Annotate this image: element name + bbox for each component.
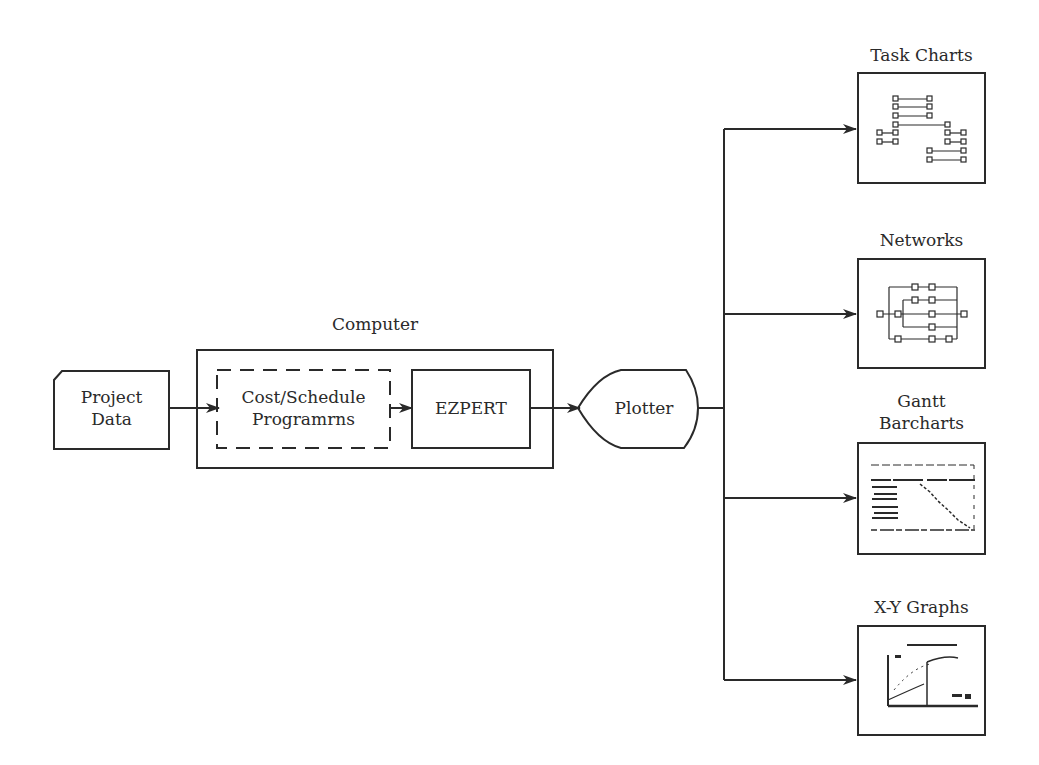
gantt-label-line2: Barcharts [858,412,985,434]
cost-schedule-label-line2: Programrns [217,408,390,430]
project-data-label-line1: Project [54,386,169,408]
task-charts-label: Task Charts [858,44,985,66]
computer-label: Computer [197,313,553,335]
xy-graphs-box [858,626,985,735]
gantt-label-line1: Gantt [858,390,985,412]
ezpert-label: EZPERT [412,397,530,419]
task-chart-thumbnail-icon [877,96,966,162]
project-data-label: Project Data [54,386,169,430]
xy-graphs-label: X-Y Graphs [858,596,985,618]
project-data-label-line2: Data [54,408,169,430]
network-thumbnail-icon [877,284,967,342]
gantt-label: Gantt Barcharts [858,390,985,434]
task-charts-box [858,73,985,183]
cost-schedule-label: Cost/Schedule Programrns [217,386,390,430]
networks-label: Networks [858,229,985,251]
plotter-label: Plotter [590,397,698,419]
gantt-thumbnail-icon [871,465,975,530]
flow-diagram-canvas [0,0,1039,765]
cost-schedule-label-line1: Cost/Schedule [217,386,390,408]
xy-graph-thumbnail-icon [888,645,978,706]
